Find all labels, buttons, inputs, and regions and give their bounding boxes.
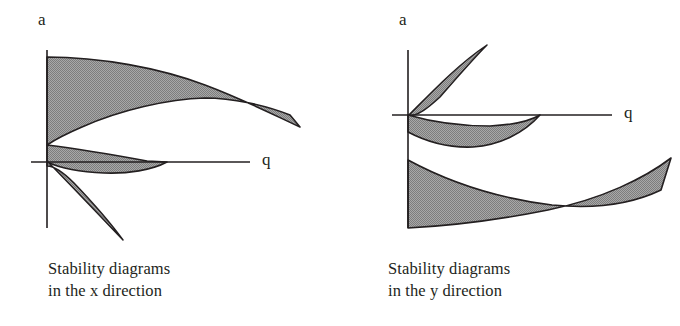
caption-y-line2: in the y direction [388,280,668,302]
axis-label-a-y-panel: a [399,10,407,30]
plot-y-direction: a q [340,0,680,260]
stability-band-y-first [408,115,540,147]
caption-x-line2: in the x direction [48,280,328,302]
stability-band-x-first [47,57,300,145]
axis-label-q-x-panel: q [262,150,271,170]
stability-diagrams-figure: a q Stability diagrams in the x directio… [0,0,680,326]
stability-wedge-y-upper [408,45,487,116]
panel-y-direction: a q Stability diagrams in the y directio… [340,0,680,326]
caption-x-direction: Stability diagrams in the x direction [48,258,328,302]
axis-label-q-y-panel: q [624,103,633,123]
caption-y-line1: Stability diagrams [388,258,668,280]
stability-band-x-second [47,145,167,173]
stability-band-y-second [408,158,671,228]
plot-x-direction: a q [0,0,340,260]
panel-x-direction: a q Stability diagrams in the x directio… [0,0,340,326]
caption-y-direction: Stability diagrams in the y direction [388,258,668,302]
axis-label-a-x-panel: a [38,10,46,30]
caption-x-line1: Stability diagrams [48,258,328,280]
